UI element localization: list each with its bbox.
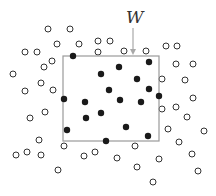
hollow-point <box>50 87 56 93</box>
hollow-point <box>67 26 73 32</box>
filled-point <box>123 124 129 130</box>
hollow-point <box>173 104 179 110</box>
filled-point <box>98 71 104 77</box>
hollow-point <box>189 151 195 157</box>
hollow-point <box>190 95 196 101</box>
filled-point <box>61 96 67 102</box>
hollow-point <box>76 41 82 47</box>
hollow-point <box>38 152 44 158</box>
hollow-point <box>163 43 169 49</box>
hollow-point <box>156 156 162 162</box>
hollow-point <box>159 106 165 112</box>
filled-points-group <box>61 53 162 144</box>
hollow-point <box>201 128 207 134</box>
hollow-point <box>49 58 55 64</box>
hollow-point <box>22 49 28 55</box>
filled-point <box>116 64 122 70</box>
hollow-point <box>173 61 179 67</box>
hollow-point <box>41 64 47 70</box>
hollow-point <box>95 38 101 44</box>
filled-point <box>103 138 109 144</box>
hollow-point <box>150 179 156 185</box>
hollow-points-group <box>10 26 207 185</box>
hollow-point <box>143 48 149 54</box>
hollow-point <box>95 49 101 55</box>
hollow-point <box>61 143 67 149</box>
point-process-diagram: W <box>0 0 216 196</box>
hollow-point <box>81 153 87 159</box>
hollow-point <box>27 115 33 121</box>
hollow-point <box>176 139 182 145</box>
hollow-point <box>195 168 201 174</box>
hollow-point <box>10 71 16 77</box>
hollow-point <box>54 41 60 47</box>
hollow-point <box>107 38 113 44</box>
hollow-point <box>13 152 19 158</box>
hollow-point <box>190 61 196 67</box>
hollow-point <box>165 126 171 132</box>
filled-point <box>98 110 104 116</box>
filled-point <box>70 53 76 59</box>
hollow-point <box>55 167 61 173</box>
hollow-point <box>121 48 127 54</box>
hollow-point <box>174 43 180 49</box>
hollow-point <box>34 49 40 55</box>
filled-point <box>83 115 89 121</box>
diagram-svg: W <box>0 0 216 196</box>
hollow-point <box>24 149 30 155</box>
filled-point <box>145 133 151 139</box>
hollow-point <box>38 80 44 86</box>
observation-window <box>63 56 159 141</box>
filled-point <box>146 59 152 65</box>
filled-point <box>134 76 140 82</box>
hollow-point <box>134 164 140 170</box>
filled-point <box>117 97 123 103</box>
filled-point <box>106 87 112 93</box>
filled-point <box>146 86 152 92</box>
window-label: W <box>126 7 145 27</box>
filled-point <box>82 99 88 105</box>
arrowhead-icon <box>130 49 136 55</box>
filled-point <box>138 99 144 105</box>
hollow-point <box>92 149 98 155</box>
hollow-point <box>114 155 120 161</box>
hollow-point <box>182 77 188 83</box>
hollow-point <box>184 114 190 120</box>
filled-point <box>156 93 162 99</box>
hollow-point <box>45 26 51 32</box>
hollow-point <box>159 76 165 82</box>
hollow-point <box>36 137 42 143</box>
hollow-point <box>132 143 138 149</box>
hollow-point <box>42 109 48 115</box>
filled-point <box>64 127 70 133</box>
hollow-point <box>22 88 28 94</box>
